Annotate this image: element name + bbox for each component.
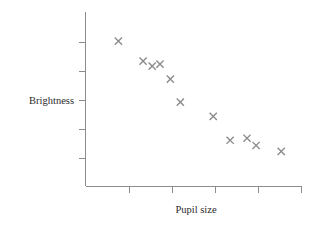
x-axis-label: Pupil size [175, 204, 216, 215]
y-axis-group [79, 12, 86, 186]
plot-canvas: Brightness Pupil size [0, 0, 317, 225]
x-axis-group [86, 187, 303, 194]
data-point-marker [177, 99, 184, 106]
data-point-marker [115, 37, 122, 44]
data-point-marker [149, 63, 156, 70]
y-axis-label: Brightness [29, 95, 74, 106]
data-point-marker [278, 148, 285, 155]
data-point-marker [167, 76, 174, 83]
data-point-marker [139, 58, 146, 65]
data-point-marker [156, 60, 163, 67]
data-point-marker [210, 113, 217, 120]
data-point-marker [253, 142, 260, 149]
data-point-series [115, 37, 285, 154]
data-point-marker [243, 135, 250, 142]
scatter-plot-figure: Brightness Pupil size [0, 0, 317, 225]
data-point-marker [227, 137, 234, 144]
